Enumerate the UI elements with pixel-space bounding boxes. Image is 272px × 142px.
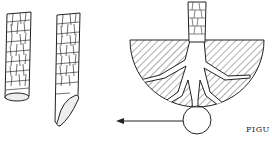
highlight-circle [183,106,211,134]
figure-caption: FIGU [246,125,270,134]
slanted-cut-root-segment [55,13,80,126]
root-system-cross-section [116,2,264,134]
straight-cut-root-segment [5,12,31,101]
figure-illustration [0,0,272,142]
arrow-left-icon [116,118,183,124]
